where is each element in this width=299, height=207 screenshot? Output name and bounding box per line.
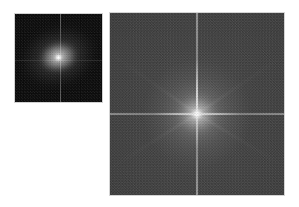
spectrum-dc-peak	[54, 53, 63, 62]
large-spectrum-panel[interactable]	[109, 12, 285, 196]
spectrum-dc-peak	[192, 109, 203, 120]
figure-caption	[0, 0, 1, 1]
small-spectrum-panel[interactable]	[14, 13, 103, 103]
small-spectrum-label	[15, 14, 16, 15]
figure-canvas	[0, 0, 299, 207]
